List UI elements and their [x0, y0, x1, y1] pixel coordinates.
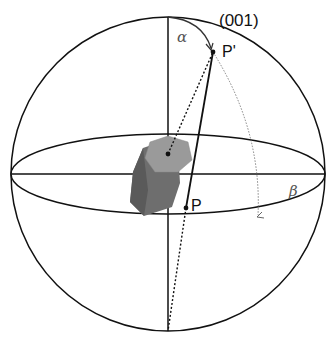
alpha-label: α [177, 28, 187, 46]
pole-point-projection [184, 206, 189, 211]
stereographic-projection-diagram: (001) P' P α β [0, 0, 328, 341]
great-circle-arc [213, 52, 258, 215]
pole-sphere-label: P' [222, 43, 236, 60]
beta-label: β [288, 182, 298, 200]
pole-projection-label: P [191, 197, 202, 214]
crystal-prism [130, 136, 192, 216]
face-center-point [166, 152, 171, 157]
pole-point-sphere [211, 50, 216, 55]
diagram-canvas: (001) P' P α β [0, 0, 328, 341]
face-normal-line [168, 52, 213, 154]
projection-line-to-south-pole [168, 208, 186, 331]
line-pole-to-projection [186, 52, 213, 208]
face-label: (001) [219, 11, 259, 30]
